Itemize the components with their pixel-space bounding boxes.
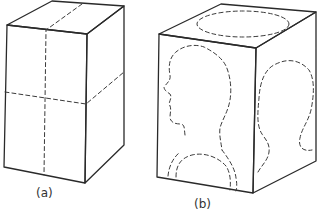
panel-a-label: (a) — [36, 186, 53, 200]
block-a-top-face — [7, 1, 124, 34]
panel-b-label: (b) — [194, 197, 211, 211]
block-a-horizontal-section-line — [5, 72, 124, 104]
block-b-head-profile — [164, 45, 231, 150]
block-a — [4, 1, 124, 183]
block-a-right-face — [85, 6, 124, 183]
block-b-right-face-outline — [258, 61, 314, 172]
figure — [0, 0, 323, 214]
block-b — [157, 4, 316, 193]
block-b-top-oval — [197, 11, 289, 37]
